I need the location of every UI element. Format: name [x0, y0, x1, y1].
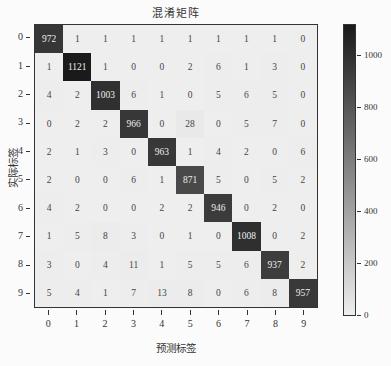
matrix-cell: 2	[176, 53, 204, 81]
matrix-cell: 5	[176, 251, 204, 279]
matrix-cell: 0	[120, 138, 148, 166]
matrix-cell: 4	[35, 81, 63, 109]
matrix-cell: 1	[176, 222, 204, 250]
matrix-cell: 0	[120, 194, 148, 222]
x-tick-label: 3	[123, 310, 143, 329]
matrix-cell: 0	[261, 222, 289, 250]
matrix-cell: 7	[261, 110, 289, 138]
matrix-cell: 2	[261, 194, 289, 222]
colorbar-tick-label: 1000	[357, 50, 382, 60]
matrix-cell: 2	[63, 110, 91, 138]
matrix-cell: 2	[232, 138, 260, 166]
matrix-cell: 0	[63, 166, 91, 194]
matrix-cell: 5	[63, 222, 91, 250]
y-tick-label: 3	[0, 116, 30, 127]
matrix-cell: 3	[261, 53, 289, 81]
x-tick-label: 2	[95, 310, 115, 329]
y-tick-label: 0	[0, 31, 30, 42]
matrix-cell: 972	[35, 25, 63, 53]
y-tick-label: 6	[0, 202, 30, 213]
y-axis-label: 实际标签	[5, 148, 20, 188]
matrix-cell: 1121	[63, 53, 91, 81]
matrix-cell: 8	[176, 279, 204, 307]
matrix-cell: 5	[232, 110, 260, 138]
matrix-cell: 1	[148, 166, 176, 194]
matrix-cell: 0	[232, 194, 260, 222]
matrix-cell: 4	[91, 251, 119, 279]
x-tick-label: 7	[237, 310, 257, 329]
matrix-cell: 3	[120, 222, 148, 250]
matrix-cell: 1	[35, 53, 63, 81]
x-tick-label: 9	[294, 310, 314, 329]
y-tick-label: 1	[0, 60, 30, 71]
matrix-cell: 1	[91, 279, 119, 307]
confusion-matrix-grid: 9721111111101112110026130421003610565002…	[34, 24, 318, 308]
matrix-cell: 1	[204, 25, 232, 53]
matrix-cell: 2	[176, 194, 204, 222]
matrix-cell: 5	[261, 81, 289, 109]
matrix-cell: 1	[91, 53, 119, 81]
matrix-cell: 6	[232, 251, 260, 279]
matrix-cell: 0	[261, 138, 289, 166]
matrix-cell: 1	[261, 25, 289, 53]
matrix-cell: 1	[232, 53, 260, 81]
colorbar-tick-label: 200	[357, 258, 378, 268]
matrix-cell: 946	[204, 194, 232, 222]
matrix-cell: 5	[261, 166, 289, 194]
matrix-cell: 28	[176, 110, 204, 138]
matrix-cell: 871	[176, 166, 204, 194]
matrix-cell: 1	[63, 25, 91, 53]
matrix-cell: 1	[176, 138, 204, 166]
matrix-cell: 1	[63, 138, 91, 166]
matrix-cell: 5	[204, 251, 232, 279]
matrix-cell: 0	[204, 222, 232, 250]
matrix-cell: 0	[176, 81, 204, 109]
matrix-cell: 1	[176, 25, 204, 53]
matrix-cell: 8	[91, 222, 119, 250]
matrix-cell: 6	[232, 279, 260, 307]
matrix-cell: 2	[289, 166, 317, 194]
matrix-cell: 937	[261, 251, 289, 279]
matrix-cell: 8	[261, 279, 289, 307]
matrix-cell: 1	[148, 251, 176, 279]
x-tick-label: 4	[152, 310, 172, 329]
matrix-cell: 0	[204, 110, 232, 138]
matrix-cell: 6	[120, 166, 148, 194]
matrix-cell: 7	[120, 279, 148, 307]
matrix-cell: 2	[289, 222, 317, 250]
matrix-cell: 1008	[232, 222, 260, 250]
matrix-cell: 0	[289, 25, 317, 53]
matrix-cell: 1	[35, 222, 63, 250]
matrix-cell: 2	[63, 81, 91, 109]
matrix-cell: 0	[148, 110, 176, 138]
matrix-cell: 2	[35, 138, 63, 166]
matrix-cell: 0	[204, 279, 232, 307]
matrix-cell: 2	[91, 110, 119, 138]
x-axis-label: 预测标签	[34, 340, 318, 355]
matrix-cell: 2	[63, 194, 91, 222]
x-tick-label: 0	[38, 310, 58, 329]
matrix-cell: 4	[204, 138, 232, 166]
matrix-cell: 1	[91, 25, 119, 53]
matrix-cell: 4	[35, 194, 63, 222]
matrix-cell: 966	[120, 110, 148, 138]
y-tick-label: 9	[0, 287, 30, 298]
matrix-cell: 5	[204, 81, 232, 109]
matrix-cell: 0	[289, 194, 317, 222]
matrix-cell: 6	[120, 81, 148, 109]
x-tick-label: 8	[265, 310, 285, 329]
matrix-cell: 6	[232, 81, 260, 109]
matrix-cell: 0	[35, 110, 63, 138]
matrix-cell: 2	[35, 166, 63, 194]
matrix-cell: 0	[148, 53, 176, 81]
matrix-cell: 2	[289, 251, 317, 279]
matrix-cell: 13	[148, 279, 176, 307]
colorbar	[343, 24, 356, 316]
matrix-cell: 0	[289, 81, 317, 109]
chart-title: 混淆矩阵	[34, 4, 318, 20]
matrix-cell: 0	[63, 251, 91, 279]
matrix-cell: 1	[148, 25, 176, 53]
matrix-cell: 1003	[91, 81, 119, 109]
colorbar-tick-label: 800	[357, 102, 378, 112]
y-tick-label: 8	[0, 258, 30, 269]
